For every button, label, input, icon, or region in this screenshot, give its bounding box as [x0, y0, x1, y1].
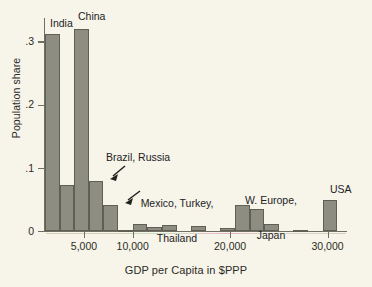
annotation-weurope-japan: W. Europe, Japan [229, 172, 313, 264]
histogram-chart: 0 .1 .2 .3 Population share 5,00010,0002… [0, 0, 372, 287]
annotation-weurope-line2: Japan [229, 230, 313, 242]
annotation-weurope-line1: W. Europe, [229, 195, 313, 207]
arrow-mexico-turkey-thailand [0, 0, 372, 287]
annotation-usa: USA [330, 184, 352, 196]
